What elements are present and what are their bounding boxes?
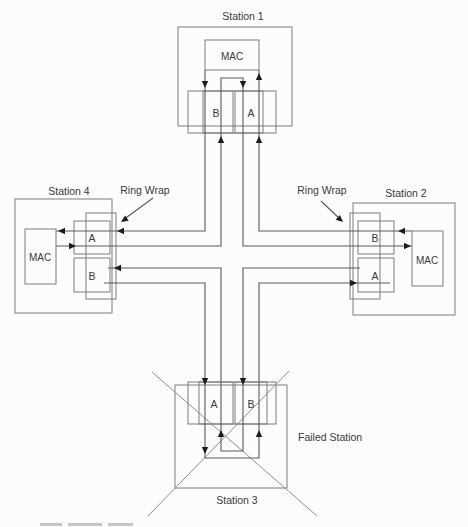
station-3-port-a-label: A (210, 398, 217, 410)
station-2-box (353, 203, 455, 315)
station-3-port-b-label: B (247, 398, 254, 410)
arrow-into-s3-a-bottom (218, 430, 224, 437)
station-2: Station 2 MAC B A (350, 187, 455, 315)
station-4-mac-label: MAC (29, 252, 51, 263)
failed-station-label: Failed Station (298, 431, 362, 443)
arrow-s4-mac-to-a (69, 243, 76, 249)
arrow-s2-b-to-mac (404, 243, 411, 249)
ring-wrap-left-pointer-line (123, 198, 153, 220)
station-1-label: Station 1 (222, 10, 264, 22)
station-2-ports-box (350, 213, 380, 299)
fddi-ring-wrap-diagram: Station 1 MAC B A Station 4 MAC A B Stat… (0, 0, 468, 527)
arrow-s4-a-to-mac (58, 228, 65, 234)
station-4-port-a-label: A (88, 232, 95, 244)
artifact-mark (108, 523, 133, 526)
station-1-port-a-label: A (247, 107, 254, 119)
arrow-s2-mac-out-b (398, 228, 405, 234)
arrow-into-s3-b-bottom (256, 430, 262, 437)
station-2-mac-label: MAC (416, 255, 438, 266)
ring-wrap-callout-right: Ring Wrap (297, 184, 347, 224)
arrow-s3-down-to-uturn (202, 447, 208, 454)
station-2-port-b-label: B (371, 232, 378, 244)
arrow-into-s1-a (256, 136, 262, 143)
arrow-s1-mac-to-b (202, 81, 208, 88)
ring-wrap-callout-left: Ring Wrap (119, 184, 170, 225)
station-2-label: Station 2 (385, 187, 427, 199)
diagram-svg: Station 1 MAC B A Station 4 MAC A B Stat… (0, 0, 468, 527)
station-2-port-a-label: A (371, 270, 378, 282)
cropped-caption-artifact (40, 523, 133, 526)
station-4: Station 4 MAC A B (15, 185, 116, 313)
station-3: A B Station 3 Failed Station (148, 371, 362, 516)
wire-s1mac-to-s4mac (56, 70, 205, 231)
station-1-mac-label: MAC (221, 51, 243, 62)
arrow-into-s4-b (114, 265, 121, 271)
arrow-into-s1-b (218, 136, 224, 143)
artifact-mark (40, 523, 62, 526)
station-1: Station 1 MAC B A (178, 10, 292, 133)
station-4-port-b-label: B (88, 270, 95, 282)
station-4-label: Station 4 (48, 185, 90, 197)
arrow-into-s4-a (117, 228, 124, 234)
station-3-label: Station 3 (216, 494, 258, 506)
ring-wrap-right-label: Ring Wrap (297, 184, 347, 196)
station-1-port-b-label: B (212, 107, 219, 119)
wire-s2mac-to-s1mac (259, 70, 412, 231)
station-3-ports-box (188, 382, 276, 424)
arrow-s1-a-to-mac (256, 73, 262, 80)
ring-wrap-left-label: Ring Wrap (120, 184, 170, 196)
ring-wires (56, 70, 412, 458)
arrow-s1-bridge-to-a (240, 81, 246, 88)
artifact-mark (68, 523, 102, 526)
station-3-box (175, 385, 287, 488)
